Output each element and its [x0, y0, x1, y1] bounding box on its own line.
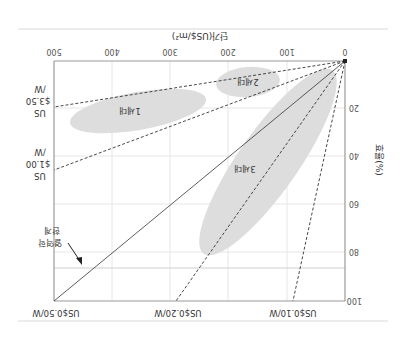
- x-tick: 100: [279, 47, 294, 56]
- x-tick: 400: [104, 47, 119, 56]
- price-label-1-00-line1: US: [34, 171, 46, 181]
- price-label-3-50-line3: /W: [34, 84, 46, 94]
- y-tick: 100: [347, 296, 362, 305]
- price-label-0-10: US$0.10/W: [269, 308, 317, 318]
- y-tick: 40: [349, 151, 359, 160]
- x-tick: 200: [220, 47, 235, 56]
- origin-marker: [343, 59, 347, 63]
- region-gen1-label: 1세대: [119, 106, 140, 116]
- x-tick: 500: [46, 47, 61, 56]
- limit-label-line1: 열역학: [38, 238, 62, 248]
- y-tick: 60: [349, 199, 359, 208]
- y-tick: 80: [349, 247, 359, 256]
- y-axis-title: 효율(%): [374, 144, 384, 176]
- region-gen3-label: 3세대: [234, 164, 255, 174]
- price-label-0-20: US$0.20/W: [154, 308, 202, 318]
- arrow-icon: [68, 243, 82, 265]
- price-label-0-50: US$0.50/W: [32, 308, 80, 318]
- limit-label-line2: 한계: [44, 226, 60, 236]
- price-label-1-00-line2: $1.00: [26, 159, 50, 169]
- solar-cell-cost-efficiency-chart: 단가(US$/m²) 0 100 200 300 400 500 20 40 6…: [0, 0, 406, 348]
- region-gen2-label: 2세대: [237, 77, 258, 87]
- price-label-1-00-line3: /W: [34, 147, 46, 157]
- x-tick: 300: [162, 47, 177, 56]
- x-tick: 0: [342, 47, 347, 56]
- x-axis-title: 단가(US$/m²): [172, 31, 228, 41]
- y-tick: 20: [349, 103, 359, 112]
- price-label-3-50-line2: $3.50: [26, 96, 50, 106]
- price-label-3-50-line1: US: [34, 108, 46, 118]
